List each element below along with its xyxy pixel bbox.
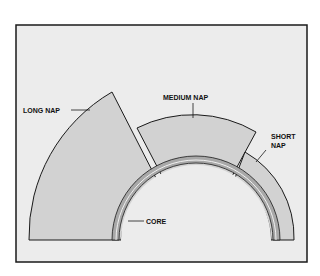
paint-roller-nap-diagram: LONG NAP MEDIUM NAP SHORT NAP CORE <box>0 0 320 276</box>
long-nap-label: LONG NAP <box>23 107 60 114</box>
medium-nap-label: MEDIUM NAP <box>163 94 208 101</box>
core-label: CORE <box>146 218 167 225</box>
short-nap-label-line1: SHORT <box>271 133 296 140</box>
short-nap-label-line2: NAP <box>271 142 286 149</box>
